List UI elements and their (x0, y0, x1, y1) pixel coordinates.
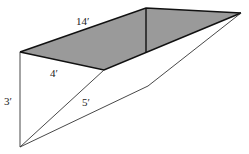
label-top-width: 4′ (50, 67, 58, 79)
slant-edge-front (20, 70, 104, 147)
label-depth: 3′ (4, 95, 12, 107)
label-length: 14′ (76, 15, 89, 27)
label-slant: 5′ (82, 96, 90, 108)
trough-diagram: 14′ 4′ 3′ 5′ (0, 0, 249, 154)
